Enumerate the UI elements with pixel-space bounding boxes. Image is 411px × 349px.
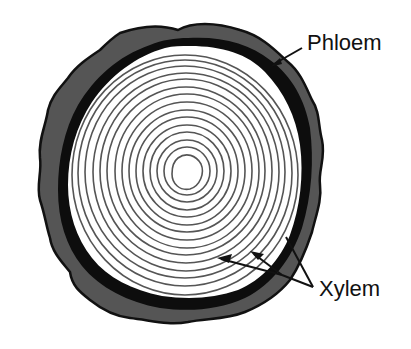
xylem-label: Xylem xyxy=(319,276,380,302)
phloem-label: Phloem xyxy=(307,30,382,56)
